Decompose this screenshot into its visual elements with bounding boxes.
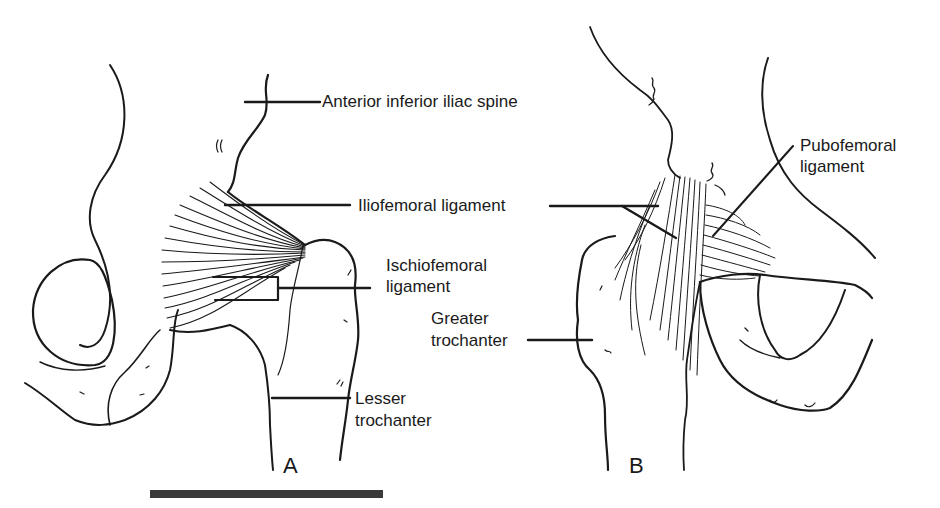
label-greater-trochanter-line2: trochanter: [431, 331, 508, 350]
label-lesser-trochanter-line1: Lesser: [355, 389, 406, 408]
label-pubofemoral-ligament-line2: ligament: [800, 157, 864, 176]
label-greater-trochanter-line1: Greater: [431, 309, 489, 328]
anatomical-drawing: [0, 0, 940, 508]
label-ischiofemoral-ligament-line2: ligament: [386, 277, 450, 296]
hip-ligaments-figure: Anterior inferior iliac spine Iliofemora…: [0, 0, 940, 508]
label-lesser-trochanter-line2: trochanter: [355, 411, 432, 430]
pubofemoral-fibers: [700, 205, 775, 279]
label-anterior-inferior-iliac-spine: Anterior inferior iliac spine: [322, 92, 518, 111]
label-ischiofemoral-ligament-line1: Ischiofemoral: [386, 256, 487, 275]
scale-bar: [150, 490, 383, 498]
pubofemoral-leader-line: [713, 146, 793, 236]
label-pubofemoral-ligament-line1: Pubofemoral: [800, 136, 896, 155]
panel-a-drawing: [25, 65, 358, 470]
panel-b-leader-lines: [528, 206, 676, 340]
label-iliofemoral-ligament: Iliofemoral ligament: [358, 196, 505, 215]
panel-label-b: B: [629, 453, 644, 479]
panel-label-a: A: [283, 453, 298, 479]
panel-b-drawing: [577, 27, 875, 470]
